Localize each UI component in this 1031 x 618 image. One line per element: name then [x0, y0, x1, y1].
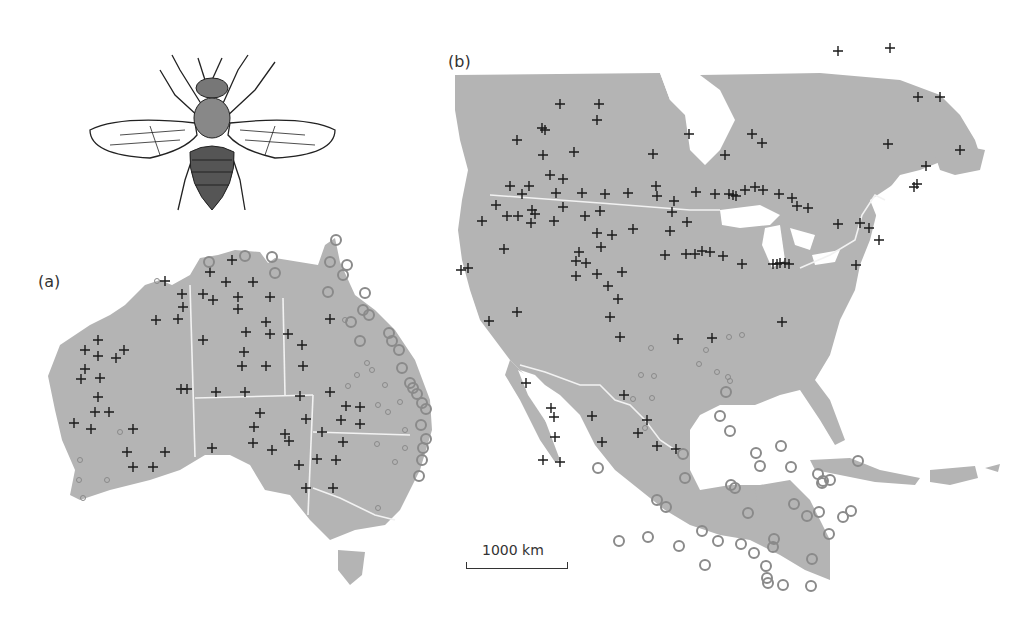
- scale-bar-label: 1000 km: [482, 542, 544, 558]
- north-america-map: [455, 73, 1000, 580]
- panel-a-label: (a): [38, 272, 60, 291]
- distribution-maps: [0, 0, 1031, 618]
- panel-b-label: (b): [448, 52, 471, 71]
- scale-bar-line: [466, 562, 568, 569]
